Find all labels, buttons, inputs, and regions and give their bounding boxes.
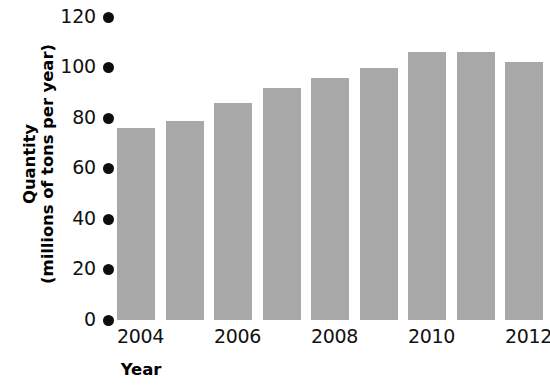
x-axis-tick-label: 2012: [505, 324, 543, 352]
x-axis-ticks: 20042006200820102012: [117, 324, 543, 352]
bar: [505, 62, 543, 320]
y-axis-tick-dot-icon: [103, 264, 114, 275]
y-axis-ticks: 020406080100120: [52, 0, 114, 392]
y-axis-tick-dot-icon: [103, 12, 114, 23]
y-axis-tick-dot-icon: [103, 315, 114, 326]
x-axis-tick-label: 2006: [214, 324, 252, 352]
bar-chart: Quantity (millions of tons per year) 020…: [0, 0, 550, 392]
x-axis-tick-label: 2008: [311, 324, 349, 352]
bar: [117, 128, 155, 320]
y-axis-tick-label: 120: [60, 7, 96, 26]
bars-row: [117, 17, 543, 320]
y-axis-tick-label: 60: [72, 158, 96, 177]
y-axis-tick-label: 80: [72, 108, 96, 127]
y-axis-tick-dot-icon: [103, 214, 114, 225]
y-axis-tick-label: 100: [60, 57, 96, 76]
bar: [214, 103, 252, 320]
bar: [457, 52, 495, 320]
bar: [166, 121, 204, 320]
plot-area: [117, 17, 543, 320]
bar: [263, 88, 301, 320]
bar: [311, 78, 349, 320]
x-axis-tick-label: 2004: [117, 324, 155, 352]
y-axis-tick-label: 0: [84, 310, 96, 329]
bar: [360, 68, 398, 321]
y-axis-tick-label: 20: [72, 259, 96, 278]
y-axis-tick-dot-icon: [103, 62, 114, 73]
x-axis-tick-label: 2010: [408, 324, 446, 352]
y-axis-tick-dot-icon: [103, 163, 114, 174]
y-axis-tick-dot-icon: [103, 113, 114, 124]
y-axis-tick-label: 40: [72, 209, 96, 228]
y-axis-title-line-1: Quantity: [21, 124, 39, 204]
x-axis-title: Year: [86, 360, 196, 379]
bar: [408, 52, 446, 320]
